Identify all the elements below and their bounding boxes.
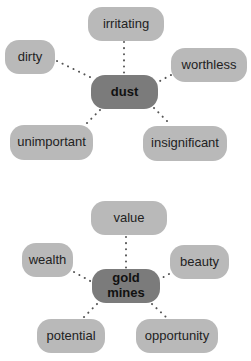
- association-wealth: wealth: [22, 243, 73, 277]
- association-insignificant: insignificant: [143, 126, 227, 161]
- association-potential: potential: [37, 319, 105, 353]
- association-irritating: irritating: [88, 7, 164, 41]
- center-node-gold-mines: gold mines: [92, 269, 160, 303]
- association-unimportant: unimportant: [10, 125, 93, 160]
- association-value: value: [91, 201, 167, 235]
- association-worthless: worthless: [171, 48, 247, 82]
- association-opportunity: opportunity: [136, 319, 218, 353]
- center-node-dust: dust: [91, 75, 158, 109]
- association-beauty: beauty: [170, 245, 229, 279]
- association-dirty: dirty: [5, 40, 55, 74]
